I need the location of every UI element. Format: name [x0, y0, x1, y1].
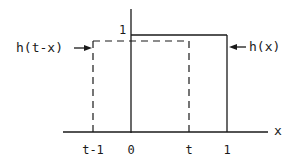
x-tick-label-0: 0 — [127, 143, 134, 157]
x-tick-label-t-minus-1: t-1 — [82, 143, 104, 157]
h-t-minus-x-arrow-icon — [74, 45, 92, 51]
h-t-minus-x-rectangle — [93, 41, 189, 132]
axes — [63, 9, 268, 133]
x-tick-label-t: t — [185, 143, 192, 157]
h-x-label: h(x) — [249, 39, 280, 54]
h-x-arrow-icon — [229, 44, 246, 50]
y-tick-label-1: 1 — [119, 23, 126, 37]
h-x-rectangle — [131, 35, 227, 132]
convolution-diagram: h(t-x) h(x) 1 x t-1 0 t 1 — [0, 0, 295, 164]
x-axis-label: x — [274, 123, 282, 138]
x-tick-label-1: 1 — [223, 143, 230, 157]
h-t-minus-x-label: h(t-x) — [16, 40, 63, 55]
